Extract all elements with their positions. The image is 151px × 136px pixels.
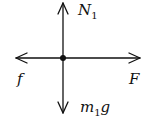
friction-force-label: f	[17, 72, 23, 87]
weight-force-label: m1g	[80, 100, 110, 118]
free-body-diagram	[0, 0, 151, 136]
normal-force-label: N1	[78, 3, 98, 21]
body-point	[60, 55, 66, 61]
applied-force-label: F	[129, 72, 139, 87]
